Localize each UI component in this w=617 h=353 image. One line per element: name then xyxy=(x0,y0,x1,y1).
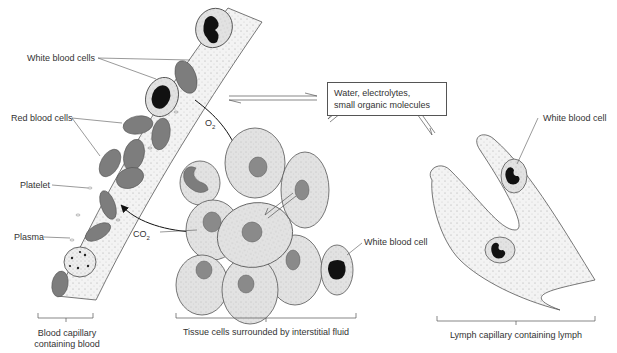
tissue-cells xyxy=(176,128,329,324)
caption-blood-capillary: Blood capillary containing blood xyxy=(28,328,106,350)
exchange-box-line2: small organic molecules xyxy=(334,99,440,111)
label-red-blood-cells: Red blood cells xyxy=(11,113,73,124)
white-blood-cell-granular xyxy=(64,247,96,277)
label-plasma: Plasma xyxy=(14,232,44,243)
label-platelet: Platelet xyxy=(20,180,50,191)
leader-line-tissue-wbc xyxy=(347,243,362,255)
white-blood-cell-tissue xyxy=(321,245,353,295)
o2-text: O xyxy=(205,118,212,128)
leader-line-lymph-wbc xyxy=(517,118,538,164)
label-white-blood-cell-lymph: White blood cell xyxy=(543,113,607,124)
caption-brackets xyxy=(38,313,595,325)
label-white-blood-cell-tissue: White blood cell xyxy=(364,237,428,248)
lymph-capillary xyxy=(430,135,595,310)
exchange-box-line1: Water, electrolytes, xyxy=(334,87,440,99)
co2-subscript: 2 xyxy=(147,235,150,241)
label-o2: O2 xyxy=(205,118,215,133)
exchange-box: Water, electrolytes, small organic molec… xyxy=(327,82,447,116)
label-white-blood-cells: White blood cells xyxy=(27,53,95,64)
co2-text: CO xyxy=(133,229,147,239)
caption-blood-capillary-line2: containing blood xyxy=(28,339,106,350)
label-co2: CO2 xyxy=(133,229,150,244)
caption-tissue: Tissue cells surrounded by interstitial … xyxy=(176,327,356,338)
caption-lymph: Lymph capillary containing lymph xyxy=(437,330,595,341)
caption-blood-capillary-line1: Blood capillary xyxy=(28,328,106,339)
o2-subscript: 2 xyxy=(212,124,215,130)
